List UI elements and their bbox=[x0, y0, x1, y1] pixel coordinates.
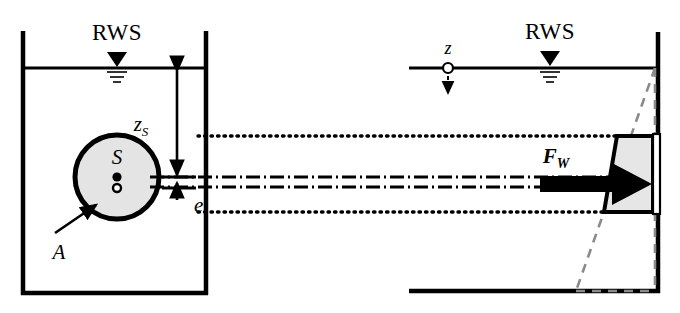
area-leader-arrow bbox=[55, 205, 96, 233]
area-label: A bbox=[51, 240, 66, 264]
force-symbol: F bbox=[542, 144, 557, 168]
depth-axis-label: z bbox=[443, 38, 451, 58]
figure-canvas: RWS S bbox=[0, 0, 680, 313]
depth-axis-group bbox=[443, 63, 453, 93]
depth-symbol: z bbox=[133, 112, 142, 136]
centroid-label: S bbox=[112, 145, 123, 169]
resultant-force-label: FW bbox=[542, 144, 571, 171]
centroid-point-marker bbox=[112, 172, 121, 181]
left-rws-label: RWS bbox=[92, 20, 142, 45]
projection-lines-group bbox=[198, 136, 628, 212]
pressure-center-point-marker bbox=[113, 184, 121, 192]
depth-subscript: S bbox=[142, 124, 149, 139]
wall-contact-band bbox=[653, 134, 660, 214]
right-rws-label: RWS bbox=[525, 19, 575, 44]
force-subscript: W bbox=[557, 156, 571, 171]
hydrostatic-force-figure: RWS S bbox=[0, 0, 680, 313]
waterline-triangle-icon-right bbox=[540, 51, 560, 66]
depth-axis-origin-marker bbox=[443, 63, 453, 73]
waterline-triangle-icon bbox=[107, 52, 127, 67]
area-leader-group bbox=[55, 205, 96, 233]
depth-dimension-label: zS bbox=[133, 112, 149, 139]
